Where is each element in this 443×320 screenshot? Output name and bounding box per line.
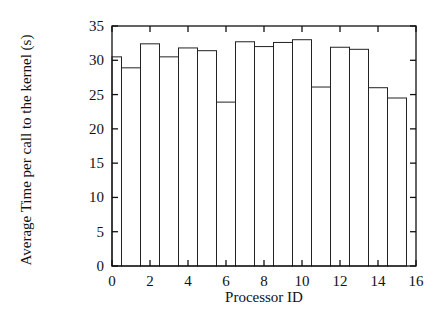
x-axis-title: Processor ID — [225, 289, 303, 305]
bar-processor-14 — [369, 88, 388, 266]
y-tick-label: 15 — [89, 155, 104, 171]
bar-processor-1 — [122, 68, 141, 266]
bars-group — [112, 40, 407, 266]
bar-processor-8 — [255, 47, 274, 266]
bar-processor-13 — [350, 49, 369, 266]
x-tick-label: 2 — [146, 273, 154, 289]
bar-processor-11 — [312, 87, 331, 266]
y-tick-label: 25 — [89, 87, 104, 103]
bar-processor-9 — [274, 42, 293, 266]
y-tick-label: 0 — [97, 258, 105, 274]
x-tick-label: 8 — [260, 273, 268, 289]
x-tick-label: 10 — [295, 273, 310, 289]
bar-processor-10 — [293, 40, 312, 266]
x-tick-label: 14 — [371, 273, 387, 289]
bar-processor-7 — [236, 42, 255, 266]
y-tick-label: 20 — [89, 121, 104, 137]
bar-processor-2 — [141, 44, 160, 266]
x-tick-labels: 0246810121416 — [108, 273, 424, 289]
bar-processor-5 — [198, 51, 217, 266]
y-tick-label: 10 — [89, 189, 104, 205]
x-tick-label: 0 — [108, 273, 116, 289]
y-tick-label: 5 — [97, 224, 105, 240]
bar-processor-0 — [112, 57, 122, 266]
bar-processor-4 — [179, 48, 198, 266]
y-tick-label: 30 — [89, 52, 104, 68]
bar-chart: 0246810121416 05101520253035 Processor I… — [0, 0, 443, 320]
bar-processor-6 — [217, 102, 236, 266]
y-axis-title: Average Time per call to the kernel (s) — [18, 35, 35, 266]
y-tick-labels: 05101520253035 — [89, 18, 104, 274]
x-tick-label: 16 — [409, 273, 425, 289]
bar-processor-15 — [388, 98, 407, 266]
bar-processor-12 — [331, 47, 350, 266]
bar-processor-3 — [160, 57, 179, 266]
x-tick-label: 4 — [184, 273, 192, 289]
y-tick-label: 35 — [89, 18, 104, 34]
x-tick-label: 6 — [222, 273, 230, 289]
x-tick-label: 12 — [333, 273, 348, 289]
